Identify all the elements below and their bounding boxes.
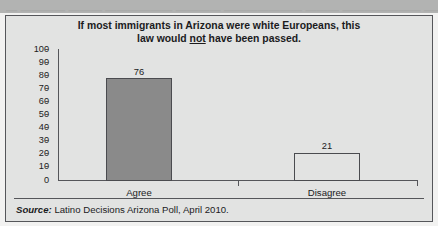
chart-title-line-2-before: law would: [137, 33, 190, 44]
y-tick-label: 50: [15, 110, 49, 119]
source-note: Source: Latino Decisions Arizona Poll, A…: [16, 204, 229, 215]
y-tick-label: 10: [15, 162, 49, 171]
source-text: Latino Decisions Arizona Poll, April 201…: [52, 204, 229, 215]
y-tick-mark: [45, 101, 49, 102]
y-tick-label: 70: [15, 84, 49, 93]
page-top-band: — ———— ——— —————— ———— ——————— ——— —————…: [0, 0, 438, 13]
y-tick-label: 40: [15, 123, 49, 132]
x-category-label-disagree: Disagree: [289, 187, 365, 198]
y-tick-mark: [45, 75, 49, 76]
y-tick-label: 80: [15, 71, 49, 80]
y-tick-label: 90: [15, 58, 49, 67]
y-axis-line: [58, 49, 59, 181]
x-tick-mark-center: [238, 181, 239, 186]
page-top-band-text: — ———— ——— —————— ———— ——————— ——— —————…: [6, 4, 436, 13]
y-tick-label: 30: [15, 136, 49, 145]
bar-value-agree: 76: [106, 67, 172, 77]
bar-agree[interactable]: [106, 78, 172, 181]
y-tick-mark: [45, 166, 49, 167]
y-tick-mark: [45, 140, 49, 141]
y-tick-label: 60: [15, 97, 49, 106]
y-tick-mark: [45, 88, 49, 89]
y-tick-label: 0: [15, 176, 49, 185]
source-label: Source:: [16, 204, 52, 215]
footer-divider: [14, 198, 424, 199]
x-tick-mark-end: [417, 181, 418, 186]
y-tick-mark: [45, 114, 49, 115]
bar-value-disagree: 21: [294, 141, 360, 151]
chart-title-line-2-after: have been passed.: [206, 33, 301, 44]
y-tick-mark: [45, 62, 49, 63]
plot-area: 100 90 80 70 60 50 40 30 20 10 0: [6, 47, 432, 197]
chart-title-line-1: If most immigrants in Arizona were white…: [78, 20, 361, 31]
figure-container: — ———— ——— —————— ———— ——————— ——— —————…: [0, 0, 438, 226]
chart-title: If most immigrants in Arizona were white…: [16, 20, 422, 45]
y-tick-mark: [45, 127, 49, 128]
chart-figure-box: If most immigrants in Arizona were white…: [5, 15, 433, 222]
y-tick-label: 100: [15, 45, 49, 54]
x-category-label-agree: Agree: [101, 187, 177, 198]
y-tick-label: 20: [15, 149, 49, 158]
y-tick-mark: [45, 49, 49, 50]
y-tick-mark: [45, 153, 49, 154]
bar-disagree[interactable]: [294, 153, 360, 181]
chart-title-emphasis: not: [190, 33, 206, 44]
